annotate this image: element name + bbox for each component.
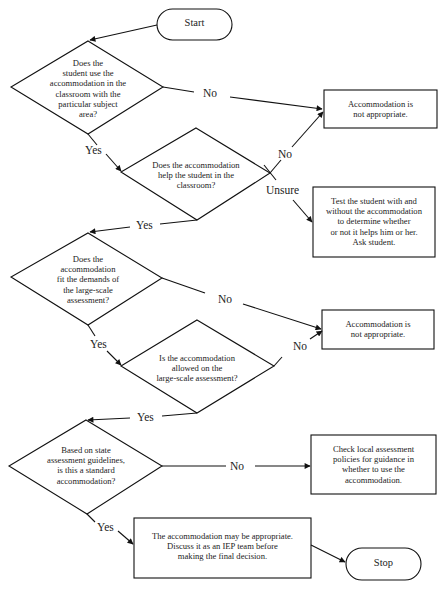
edge-label-d2-unsure: Unsure — [266, 184, 299, 196]
outcome-1-text: Accommodation is not appropriate. — [324, 99, 437, 119]
outcome-3-text: Accommodation is not appropriate. — [322, 319, 434, 339]
edge-start-d1 — [90, 25, 157, 40]
edge-d4-yes-b — [88, 418, 130, 420]
edge-d5-yes-a — [87, 514, 95, 522]
edge-d4-no-a — [274, 357, 282, 366]
edge-label-d3-yes: Yes — [90, 338, 107, 350]
edge-d3-no-b — [243, 304, 321, 329]
outcome-4-text: Check local assessment policies for guid… — [311, 444, 436, 485]
edge-d2-yes-b — [90, 227, 130, 232]
decision-5-text: Based on state assessment guidelines, is… — [36, 445, 136, 486]
edge-d2-yes-a — [160, 220, 197, 224]
start-label: Start — [157, 17, 232, 28]
edge-label-d4-no: No — [293, 340, 307, 352]
edge-d2-no-a — [270, 160, 281, 173]
edge-d3-yes-b — [107, 351, 121, 365]
edge-label-d1-no: No — [203, 87, 217, 99]
decision-3-text: Does the accommodation fit the demands o… — [38, 254, 138, 305]
edge-label-d5-no: No — [230, 460, 244, 472]
edge-label-d2-no: No — [278, 148, 292, 160]
edge-d4-yes-a — [162, 413, 197, 416]
edge-d1-yes-b — [106, 154, 121, 171]
edge-d4-no-b — [310, 331, 322, 339]
edge-d3-yes-a — [88, 325, 95, 336]
edge-d1-no-b — [230, 97, 322, 109]
edge-label-d1-yes: Yes — [85, 144, 102, 156]
edge-label-d5-yes: Yes — [97, 521, 114, 533]
outcome-2-text: Test the student with and without the ac… — [313, 196, 435, 247]
decision-4-text: Is the accommodation allowed on the larg… — [137, 353, 257, 384]
outcome-5-text: The accommodation may be appropriate. Di… — [134, 531, 311, 562]
decision-2-text: Does the accommodation help the student … — [136, 160, 256, 191]
edge-label-d2-yes: Yes — [136, 219, 153, 231]
edge-o5-stop — [311, 545, 345, 562]
decision-1-text: Does the student use the accommodation i… — [38, 58, 138, 119]
edge-label-d4-yes: Yes — [137, 411, 154, 423]
edge-label-d3-no: No — [218, 293, 232, 305]
edge-d3-no-a — [162, 278, 205, 293]
edge-d2-no-b — [292, 112, 323, 147]
edge-d5-yes-b — [118, 531, 133, 544]
edge-d1-no-a — [163, 87, 194, 92]
edge-d2-unsure-b — [293, 200, 312, 222]
stop-label: Stop — [346, 557, 421, 568]
